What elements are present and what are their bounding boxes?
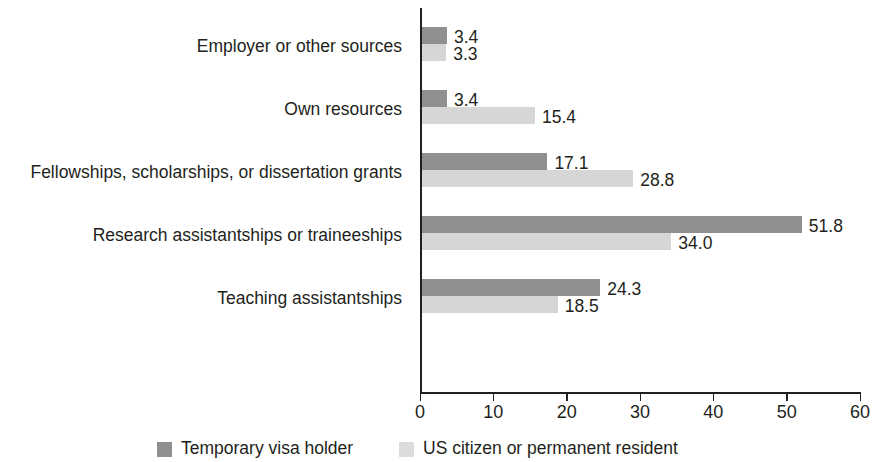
x-axis-tick	[493, 393, 495, 401]
chart-legend: Temporary visa holderUS citizen or perma…	[0, 437, 874, 461]
x-axis-tick	[860, 393, 862, 401]
x-axis-tick-label: 50	[777, 403, 797, 421]
category-label: Employer or other sources	[0, 38, 412, 56]
x-axis-tick	[640, 393, 642, 401]
x-axis-tick-label: 0	[415, 403, 425, 421]
x-axis-tick-label: 10	[483, 403, 503, 421]
x-axis-tick-label: 20	[557, 403, 577, 421]
x-axis-tick-label: 30	[630, 403, 650, 421]
bar-value-label: 51.8	[809, 218, 843, 236]
x-axis-tick-label: 40	[703, 403, 723, 421]
category-label: Research assistantships or traineeships	[0, 227, 412, 245]
bar-value-label: 3.3	[453, 46, 477, 64]
bar-value-label: 18.5	[565, 298, 599, 316]
y-axis-line	[420, 8, 422, 393]
x-axis-tick	[713, 393, 715, 401]
bar-chart: Employer or other sourcesOwn resourcesFe…	[0, 0, 874, 462]
legend-label: US citizen or permanent resident	[423, 440, 678, 458]
bar	[422, 170, 633, 187]
bar-value-label: 28.8	[640, 172, 674, 190]
category-label: Fellowships, scholarships, or dissertati…	[0, 164, 412, 182]
bar-value-label: 15.4	[542, 109, 576, 127]
bar	[422, 90, 447, 107]
bar	[422, 27, 447, 44]
bar	[422, 296, 558, 313]
legend-swatch-icon	[157, 442, 172, 457]
bar	[422, 107, 535, 124]
bar	[422, 44, 446, 61]
bar	[422, 233, 671, 250]
x-axis-tick-label: 60	[850, 403, 870, 421]
category-label: Own resources	[0, 101, 412, 119]
bar	[422, 279, 600, 296]
legend-label: Temporary visa holder	[181, 440, 353, 458]
legend-item[interactable]: US citizen or permanent resident	[399, 437, 678, 461]
bar	[422, 153, 547, 170]
x-axis-tick	[786, 393, 788, 401]
x-axis-tick	[566, 393, 568, 401]
bar-value-label: 24.3	[607, 281, 641, 299]
bar-value-label: 34.0	[678, 235, 712, 253]
category-label: Teaching assistantships	[0, 290, 412, 308]
legend-item[interactable]: Temporary visa holder	[157, 437, 353, 461]
x-axis-tick	[420, 393, 422, 401]
bar	[422, 216, 802, 233]
legend-swatch-icon	[399, 442, 414, 457]
